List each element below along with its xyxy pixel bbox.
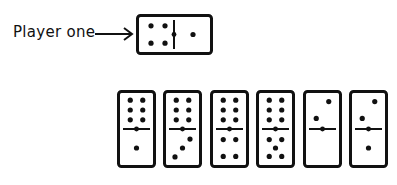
pip-dot — [279, 154, 284, 159]
hand-domino[interactable] — [256, 90, 295, 168]
pip-dot — [360, 116, 365, 121]
pip-dot — [279, 137, 284, 142]
pip-dot — [140, 107, 145, 112]
hand-domino[interactable] — [303, 90, 342, 168]
pip-dot — [372, 99, 377, 104]
pip-dot — [221, 107, 226, 112]
pip-dot — [128, 98, 133, 103]
pip-dot — [233, 117, 238, 122]
pip-dot — [267, 137, 272, 142]
arrow-right-icon — [95, 27, 135, 41]
pip-dot — [128, 117, 133, 122]
pip-dot — [162, 41, 167, 46]
pip-dot — [186, 98, 191, 103]
pip-dot — [279, 98, 284, 103]
pip-dot — [267, 117, 272, 122]
pip-dot — [279, 117, 284, 122]
pip-dot — [221, 137, 226, 142]
pip-dot — [221, 117, 226, 122]
pip-dot — [233, 154, 238, 159]
hand-domino[interactable] — [349, 90, 388, 168]
pip-dot — [140, 98, 145, 103]
pip-dot — [221, 154, 226, 159]
pip-dot — [174, 107, 179, 112]
pip-dot — [134, 145, 139, 150]
hand-domino[interactable] — [117, 90, 156, 168]
pip-dot — [221, 98, 226, 103]
pip-dot — [267, 98, 272, 103]
pip-dot — [174, 98, 179, 103]
pip-dot — [172, 154, 177, 159]
hand-domino[interactable] — [163, 90, 202, 168]
pip-dot — [180, 145, 185, 150]
hand-domino[interactable] — [210, 90, 249, 168]
pip-dot — [187, 136, 192, 141]
pip-dot — [148, 23, 153, 28]
pip-dot — [186, 107, 191, 112]
pip-dot — [148, 41, 153, 46]
pip-dot — [233, 107, 238, 112]
pip-dot — [366, 145, 371, 150]
player-one-label: Player one — [13, 23, 95, 41]
pip-dot — [233, 98, 238, 103]
pip-dot — [314, 116, 319, 121]
pip-dot — [174, 117, 179, 122]
pip-dot — [326, 99, 331, 104]
pip-dot — [190, 32, 195, 37]
pip-dot — [267, 154, 272, 159]
pip-dot — [186, 117, 191, 122]
pip-dot — [267, 107, 272, 112]
pip-dot — [233, 137, 238, 142]
pip-dot — [140, 117, 145, 122]
pip-dot — [128, 107, 133, 112]
player-one-domino[interactable] — [136, 14, 213, 55]
pip-dot — [162, 23, 167, 28]
pip-dot — [279, 107, 284, 112]
pip-dot — [273, 145, 278, 150]
